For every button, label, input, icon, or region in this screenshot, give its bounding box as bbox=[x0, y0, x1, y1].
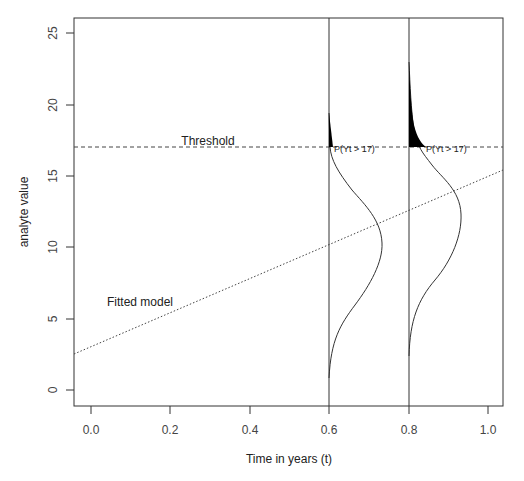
y-tick-label: 20 bbox=[46, 98, 60, 112]
plot-frame bbox=[74, 18, 503, 406]
x-tick-label: 0.6 bbox=[321, 423, 338, 437]
x-tick-label: 0.0 bbox=[83, 423, 100, 437]
probability-label-0.8: P(Yt > 17) bbox=[426, 144, 467, 154]
x-tick-label: 0.2 bbox=[162, 423, 179, 437]
y-tick-label: 0 bbox=[46, 386, 60, 393]
y-tick-label: 15 bbox=[46, 169, 60, 183]
y-tick-label: 25 bbox=[46, 26, 60, 40]
y-tick-labels: 0 5 10 15 20 25 bbox=[46, 26, 60, 393]
density-curve-0.8 bbox=[409, 62, 461, 356]
y-tick-label: 10 bbox=[46, 240, 60, 254]
x-tick-labels: 0.0 0.2 0.4 0.6 0.8 1.0 bbox=[83, 423, 497, 437]
chart: 0 5 10 15 20 25 analyte value 0.0 0.2 0.… bbox=[0, 0, 524, 481]
x-axis bbox=[91, 406, 488, 414]
y-tick-label: 5 bbox=[46, 315, 60, 322]
x-tick-label: 0.8 bbox=[401, 423, 418, 437]
x-tick-label: 1.0 bbox=[480, 423, 497, 437]
probability-label-0.6: P(Yt > 17) bbox=[334, 144, 375, 154]
y-axis-label: analyte value bbox=[17, 176, 31, 247]
fitted-model-label: Fitted model bbox=[107, 295, 173, 309]
x-tick-label: 0.4 bbox=[242, 423, 259, 437]
fitted-model-line bbox=[74, 170, 503, 354]
x-axis-label: Time in years (t) bbox=[246, 452, 332, 466]
y-axis bbox=[66, 33, 74, 390]
threshold-label: Threshold bbox=[181, 134, 234, 148]
